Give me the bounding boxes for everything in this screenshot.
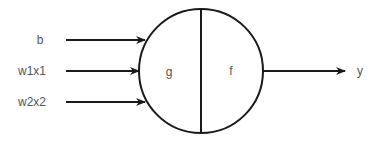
node-label-g: g: [166, 65, 173, 79]
input-label-w2x2: w2x2: [17, 95, 46, 109]
neuron-diagram: b w1x1 w2x2 g f y: [0, 0, 382, 144]
input-label-b: b: [37, 33, 44, 47]
output-label-y: y: [357, 64, 363, 78]
input-label-w1x1: w1x1: [17, 64, 46, 78]
